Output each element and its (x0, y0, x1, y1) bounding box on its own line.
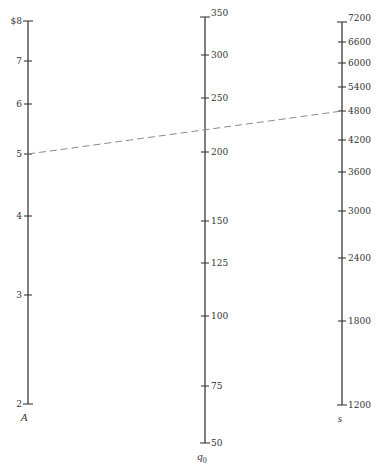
tick-label: 250 (211, 93, 228, 103)
tick-label: 100 (211, 311, 228, 321)
tick-label: 2400 (348, 253, 371, 263)
axes-layer: $8765432A3503002502001501251007550q07200… (11, 8, 372, 465)
isopleth-dashed-line (28, 111, 342, 154)
tick-label: 350 (211, 8, 228, 18)
nomogram: $8765432A3503002502001501251007550q07200… (0, 0, 378, 475)
tick-label: 50 (211, 438, 223, 448)
axis-name-s: s (338, 412, 342, 424)
tick-label: 4800 (348, 106, 371, 116)
axis-name-text: s (338, 412, 342, 424)
axis-name-subscript: 0 (203, 456, 207, 465)
tick-label: 300 (211, 50, 228, 60)
tick-label: 7200 (348, 13, 371, 23)
tick-label: 75 (211, 381, 223, 391)
tick-label: 4 (16, 211, 22, 221)
tick-label: 1200 (348, 400, 371, 410)
tick-label: 6600 (348, 37, 371, 47)
tick-label: 5 (16, 149, 22, 159)
axis-s: 7200660060005400480042003600300024001800… (337, 13, 371, 424)
axis-name-q0: q0 (197, 450, 207, 465)
tick-label: 3600 (348, 167, 371, 177)
tick-label: 6000 (348, 58, 371, 68)
tick-label: 3 (16, 290, 22, 300)
tick-label: 3000 (348, 206, 371, 216)
tick-label: 6 (16, 99, 22, 109)
axis-A: $8765432A (11, 16, 33, 423)
tick-label: 5400 (348, 82, 371, 92)
tick-label: $8 (11, 16, 23, 26)
tick-label: 4200 (348, 135, 371, 145)
axis-name-A: A (20, 411, 28, 423)
axis-q0: 3503002502001501251007550q0 (197, 8, 228, 465)
tick-label: 2 (16, 399, 22, 409)
tick-label: 7 (16, 56, 22, 66)
tick-label: 1800 (348, 316, 371, 326)
tick-label: 150 (211, 216, 228, 226)
tick-label: 200 (211, 147, 228, 157)
tick-label: 125 (211, 258, 228, 268)
axis-name-text: A (20, 411, 28, 423)
